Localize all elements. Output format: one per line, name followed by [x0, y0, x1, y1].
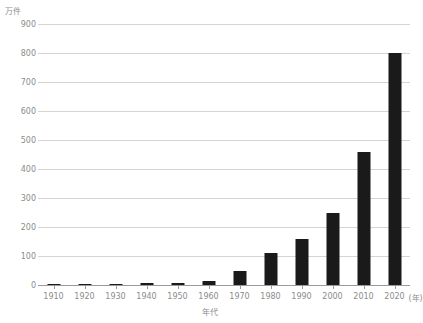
x-axis-line: [38, 285, 410, 286]
x-axis-unit-suffix: (年): [409, 292, 423, 303]
x-tick-label-1920: 1920: [74, 292, 94, 301]
x-tick-label-1950: 1950: [167, 292, 187, 301]
x-tick-label-1980: 1980: [260, 292, 280, 301]
x-tick-mark-1990: [302, 285, 303, 289]
plot-area: [38, 24, 410, 285]
y-tick-label-100: 100: [2, 252, 36, 261]
x-tick-label-1970: 1970: [229, 292, 249, 301]
bar-2020: [388, 53, 401, 285]
x-tick-mark-1970: [240, 285, 241, 289]
bar-1970: [233, 271, 246, 286]
x-tick-mark-2020: [395, 285, 396, 289]
y-tick-label-300: 300: [2, 194, 36, 203]
x-tick-label-1940: 1940: [136, 292, 156, 301]
y-tick-label-600: 600: [2, 107, 36, 116]
x-tick-label-1910: 1910: [43, 292, 63, 301]
x-tick-label-2020: 2020: [384, 292, 404, 301]
x-tick-mark-2000: [333, 285, 334, 289]
y-tick-label-400: 400: [2, 165, 36, 174]
x-tick-label-1990: 1990: [291, 292, 311, 301]
x-tick-mark-1960: [209, 285, 210, 289]
x-tick-mark-1920: [85, 285, 86, 289]
x-tick-mark-1930: [116, 285, 117, 289]
bar-2010: [357, 152, 370, 285]
bar-1980: [264, 253, 277, 285]
x-tick-mark-1910: [54, 285, 55, 289]
x-tick-label-1960: 1960: [198, 292, 218, 301]
bar-1990: [295, 239, 308, 285]
y-tick-label-200: 200: [2, 223, 36, 232]
x-tick-mark-1940: [147, 285, 148, 289]
x-axis-title: 年代: [0, 306, 420, 317]
bars-layer: [38, 24, 410, 285]
y-tick-label-500: 500: [2, 136, 36, 145]
x-tick-label-1930: 1930: [105, 292, 125, 301]
y-tick-label-0: 0: [2, 281, 36, 290]
bar-2000: [326, 213, 339, 286]
x-tick-label-2010: 2010: [353, 292, 373, 301]
x-tick-mark-1950: [178, 285, 179, 289]
x-tick-label-2000: 2000: [322, 292, 342, 301]
x-tick-mark-2010: [364, 285, 365, 289]
y-axis-unit-label: 万件: [5, 5, 21, 16]
x-tick-mark-1980: [271, 285, 272, 289]
y-tick-label-900: 900: [2, 20, 36, 29]
y-tick-label-800: 800: [2, 49, 36, 58]
y-axis: 0100200300400500600700800900: [0, 24, 36, 285]
y-tick-label-700: 700: [2, 78, 36, 87]
